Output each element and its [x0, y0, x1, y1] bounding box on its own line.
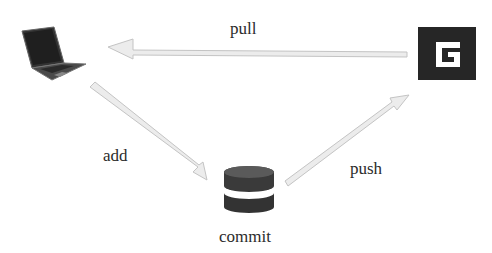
laptop-icon: [22, 27, 86, 80]
push-arrow: [285, 95, 409, 186]
pull-arrow: [108, 39, 407, 59]
pull-label: pull: [230, 20, 256, 37]
commit-label: commit: [219, 228, 271, 245]
add-arrow: [90, 82, 207, 180]
g-logo-icon: [418, 27, 476, 80]
push-label: push: [350, 160, 382, 177]
add-label: add: [103, 147, 128, 164]
database-icon: [224, 166, 274, 213]
